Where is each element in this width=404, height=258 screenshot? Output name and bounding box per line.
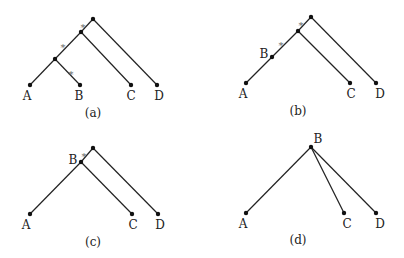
edge-n1-B	[272, 31, 298, 57]
panel-caption: (b)	[289, 104, 306, 118]
panel-caption: (d)	[289, 233, 306, 247]
edge-r-D	[93, 19, 157, 85]
tree-figure: ABCD***(a)BACD**(b)BACD*(c)BACD(d)	[0, 0, 404, 258]
edge-B-D	[311, 147, 376, 213]
node-D	[374, 211, 378, 215]
node-label-B: B	[260, 47, 269, 61]
tree-diagram-svg: ABCD***(a)BACD**(b)BACD*(c)BACD(d)	[0, 0, 404, 258]
node-D	[374, 81, 378, 85]
node-C	[129, 83, 133, 87]
edge-B-C	[311, 147, 344, 213]
edge-r-D	[93, 148, 158, 214]
node-r	[91, 17, 95, 21]
node-label-C: C	[128, 218, 137, 232]
node-D	[156, 212, 160, 216]
node-label-A: A	[22, 89, 32, 103]
node-C	[342, 211, 346, 215]
edge-r-D	[311, 17, 376, 83]
star-marker: *	[82, 151, 87, 162]
node-label-B: B	[314, 132, 323, 146]
node-A	[244, 211, 248, 215]
node-r	[91, 146, 95, 150]
edge-B-A	[246, 147, 311, 213]
star-marker: *	[61, 42, 66, 53]
edge-n2-B	[55, 59, 80, 85]
edge-n1-n2	[55, 32, 81, 59]
edge-B-C	[81, 162, 132, 214]
panel-d: BACD(d)	[238, 132, 385, 247]
panel-caption: (a)	[85, 106, 102, 120]
node-label-C: C	[342, 217, 351, 231]
node-label-D: D	[375, 217, 385, 231]
edge-n1-C	[298, 31, 350, 83]
node-label-A: A	[21, 218, 31, 232]
node-label-A: A	[238, 217, 248, 231]
node-label-D: D	[154, 89, 164, 103]
node-label-C: C	[346, 87, 355, 101]
node-A	[28, 212, 32, 216]
node-B	[78, 83, 82, 87]
panel-c: BACD*(c)	[21, 146, 165, 249]
node-r	[309, 15, 313, 19]
panel-caption: (c)	[85, 235, 101, 249]
node-B	[270, 55, 274, 59]
edge-B-A	[30, 162, 81, 214]
node-label-C: C	[126, 89, 135, 103]
edge-n1-C	[81, 32, 131, 85]
star-marker: *	[279, 40, 284, 51]
node-B	[309, 145, 313, 149]
star-marker: *	[299, 20, 304, 31]
panel-a: ABCD***(a)	[22, 17, 164, 120]
panel-b: BACD**(b)	[238, 15, 385, 118]
node-n2	[53, 57, 57, 61]
star-marker: *	[81, 22, 86, 33]
node-C	[130, 212, 134, 216]
node-A	[244, 81, 248, 85]
node-label-B: B	[69, 153, 78, 167]
node-label-D: D	[155, 218, 165, 232]
node-label-A: A	[238, 87, 248, 101]
node-label-B: B	[75, 89, 84, 103]
node-C	[348, 81, 352, 85]
edge-n2-A	[30, 59, 55, 85]
node-A	[28, 83, 32, 87]
node-label-D: D	[375, 87, 385, 101]
star-marker: *	[69, 69, 74, 80]
node-D	[155, 83, 159, 87]
